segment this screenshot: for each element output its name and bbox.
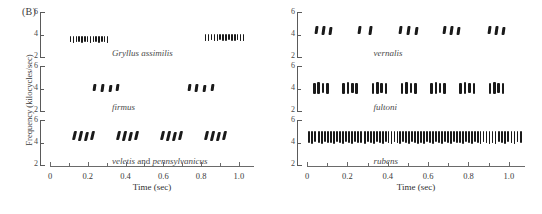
x-axis-tick-label: 0.8 (463, 171, 474, 181)
y-axis-tick-label: 6 (34, 62, 38, 70)
sound-pulse (100, 84, 104, 92)
sound-pulse (372, 83, 375, 94)
x-axis-tick (307, 162, 308, 167)
sound-pulse (438, 131, 440, 143)
y-axis-tick-label: 2 (291, 106, 295, 114)
sound-pulse (414, 131, 416, 143)
sound-pulse (408, 131, 410, 144)
subplot-vernalis: 642vernalis (297, 8, 529, 64)
sound-pulse (489, 83, 492, 94)
y-axis-tick (41, 89, 44, 90)
y-axis-tick-label: 6 (291, 8, 295, 16)
sound-pulse (95, 36, 97, 42)
x-axis-tick (144, 163, 145, 167)
sound-pulse (450, 26, 454, 35)
sound-pulse (520, 131, 522, 143)
trace-area (50, 66, 254, 110)
subplot-rubens: 642rubens (297, 116, 529, 172)
sound-pulse (354, 131, 356, 142)
sound-pulse (360, 131, 362, 143)
x-axis-tick (88, 162, 89, 167)
sound-pulse (231, 34, 233, 40)
sound-pulse (172, 132, 177, 141)
sound-pulse (81, 36, 83, 43)
sound-pulse (204, 131, 209, 140)
sound-pulse (336, 131, 338, 142)
sound-pulse (101, 36, 103, 42)
y-axis-tick-label: 4 (34, 30, 38, 38)
sound-pulse (462, 131, 464, 144)
sound-pulse (90, 36, 92, 43)
sound-pulse (222, 131, 227, 140)
trace-area (307, 66, 525, 110)
sound-pulse (426, 131, 428, 142)
sound-pulse (330, 131, 332, 143)
sound-pulse (216, 132, 221, 141)
y-axis-spine (297, 66, 302, 112)
right-column: 642vernalis642fultoni642rubens00.20.40.6… (271, 0, 542, 214)
x-axis-tick-label: 1.0 (234, 171, 245, 181)
sound-pulse (504, 131, 506, 144)
sound-pulse (351, 131, 353, 144)
sound-pulse (333, 131, 335, 144)
sound-pulse (511, 131, 513, 143)
sound-pulse (473, 83, 476, 94)
sound-pulse (514, 131, 516, 144)
sound-pulse (240, 34, 242, 40)
sound-pulse (93, 36, 95, 42)
sound-pulse (308, 131, 310, 143)
y-axis-tick (41, 143, 44, 144)
y-axis-tick-label: 2 (291, 160, 295, 168)
sound-pulse (93, 84, 97, 91)
sound-pulse (497, 83, 500, 93)
sound-pulse (435, 82, 438, 94)
sound-pulse (342, 131, 344, 144)
sound-pulse (444, 131, 446, 142)
x-axis-title: Time (sec) (50, 182, 254, 192)
sound-pulse (195, 84, 199, 92)
species-label: fultoni (374, 102, 398, 112)
x-axis: 00.20.40.60.81.0Time (sec) (307, 166, 525, 192)
sound-pulse (364, 131, 366, 144)
sound-pulse (225, 34, 227, 41)
y-axis-spine (40, 66, 45, 112)
sound-pulse (84, 36, 86, 42)
x-axis-tick (448, 163, 449, 167)
x-axis-tick-label: 0.2 (342, 171, 353, 181)
x-axis-tick-label: 0 (48, 171, 52, 181)
sound-pulse (373, 131, 375, 144)
trace-area (307, 12, 525, 56)
x-axis-tick (126, 162, 127, 167)
sound-pulse (107, 36, 109, 43)
sound-pulse (90, 131, 95, 140)
sound-pulse (211, 34, 213, 40)
sound-pulse (313, 83, 316, 94)
sound-pulse (324, 131, 326, 142)
sound-pulse (443, 83, 446, 94)
sound-pulse (391, 131, 393, 144)
x-axis-tick (347, 162, 348, 167)
sound-pulse (487, 26, 491, 34)
x-axis-tick-label: 0.8 (196, 171, 207, 181)
sound-pulse (116, 131, 121, 140)
sound-pulse (388, 131, 390, 143)
y-axis-spine (297, 120, 302, 166)
sound-pulse (72, 131, 77, 140)
sound-pulse (321, 131, 323, 144)
sound-pulse (380, 83, 383, 93)
sound-pulse (439, 83, 442, 93)
x-axis-tick (509, 162, 510, 167)
sound-pulse (357, 131, 359, 143)
sound-pulse (414, 27, 418, 35)
sound-pulse (234, 34, 236, 41)
y-axis-tick-label: 4 (34, 138, 38, 146)
sound-pulse (210, 84, 214, 91)
sound-pulse (222, 34, 224, 40)
y-axis-spine (40, 12, 45, 58)
sound-pulse (122, 131, 127, 141)
sound-pulse (471, 131, 473, 144)
sound-pulse (435, 131, 437, 142)
sound-pulse (351, 83, 354, 93)
sound-pulse (376, 82, 379, 94)
subplot-gryllus: 642Gryllus assimilis (40, 8, 258, 64)
